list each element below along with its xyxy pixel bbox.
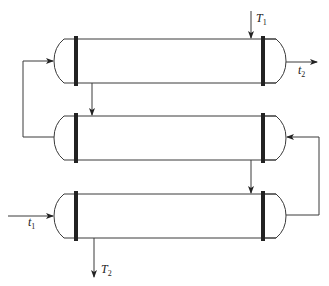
right-head (263, 39, 286, 83)
left-tubesheet (74, 191, 78, 241)
label-T1: T1 (256, 11, 267, 27)
label-t1: t1 (28, 215, 35, 231)
exchanger-2 (54, 113, 286, 163)
label-t2: t2 (298, 63, 305, 79)
left-head (54, 194, 76, 238)
heat-exchanger-diagram: T1 t2 t1 T2 (0, 0, 329, 286)
right-head (263, 194, 286, 238)
label-T2: T2 (101, 262, 112, 278)
right-tubesheet (261, 113, 265, 163)
right-head (263, 116, 286, 160)
exchanger-3 (54, 191, 286, 241)
tube-loop-right (286, 137, 319, 215)
exchanger-1 (54, 36, 286, 86)
tube-loop-left (23, 61, 54, 137)
left-head (54, 116, 76, 160)
right-tubesheet (261, 36, 265, 86)
right-tubesheet (261, 191, 265, 241)
left-head (54, 39, 76, 83)
left-tubesheet (74, 36, 78, 86)
left-tubesheet (74, 113, 78, 163)
